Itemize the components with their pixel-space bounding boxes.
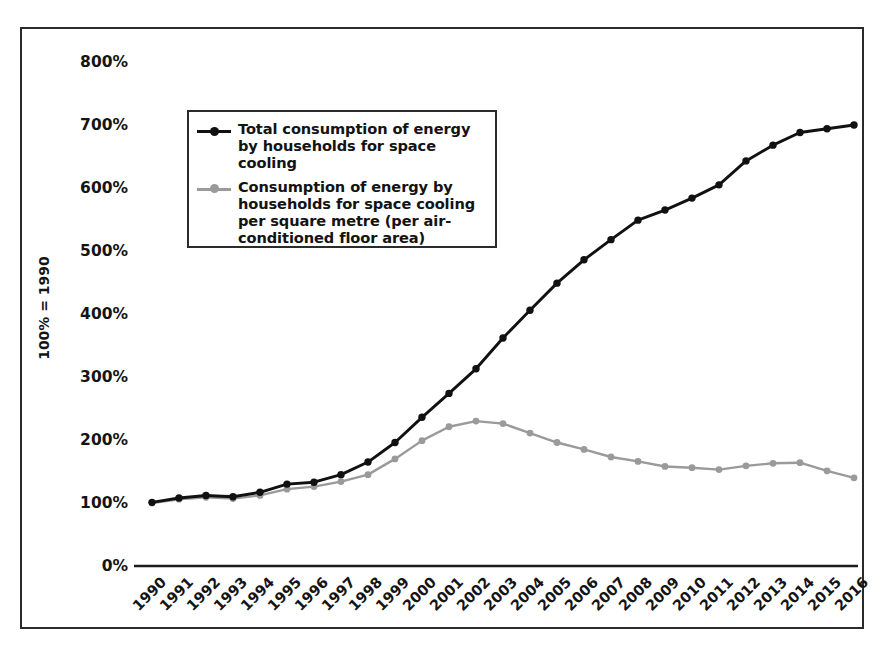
- data-point-marker: [202, 492, 209, 499]
- data-point-marker: [824, 467, 831, 474]
- data-point-marker: [392, 456, 399, 463]
- data-point-marker: [634, 216, 641, 223]
- data-point-marker: [446, 423, 453, 430]
- data-point-marker: [662, 463, 669, 470]
- data-point-marker: [445, 390, 452, 397]
- data-point-marker: [472, 365, 479, 372]
- data-point-marker: [716, 466, 723, 473]
- data-point-marker: [527, 430, 534, 437]
- data-point-marker: [365, 471, 372, 478]
- data-point-marker: [770, 460, 777, 467]
- chart-figure: 100% = 1990 800%700%600%500%400%300%200%…: [0, 0, 884, 646]
- data-point-marker: [581, 446, 588, 453]
- legend-label-total: Total consumption of energy by household…: [238, 121, 487, 172]
- data-point-marker: [607, 236, 614, 243]
- data-point-marker: [796, 129, 803, 136]
- data-point-marker: [769, 141, 776, 148]
- data-point-marker: [148, 499, 155, 506]
- data-point-marker: [689, 464, 696, 471]
- data-point-marker: [580, 256, 587, 263]
- legend-entry-total: Total consumption of energy by household…: [197, 121, 487, 172]
- data-point-marker: [473, 418, 480, 425]
- data-point-marker: [715, 181, 722, 188]
- data-point-marker: [661, 206, 668, 213]
- data-point-marker: [553, 279, 560, 286]
- legend-entry-per-sqm: Consumption of energy by households for …: [197, 179, 487, 247]
- data-point-marker: [635, 458, 642, 465]
- legend-line-sample-per-sqm: [197, 180, 231, 198]
- circle-marker: [210, 184, 219, 193]
- data-point-marker: [823, 125, 830, 132]
- data-point-marker: [499, 334, 506, 341]
- data-point-marker: [256, 489, 263, 496]
- data-point-marker: [418, 414, 425, 421]
- data-point-marker: [283, 480, 290, 487]
- data-point-marker: [851, 474, 858, 481]
- data-point-marker: [743, 462, 750, 469]
- data-point-marker: [310, 479, 317, 486]
- data-point-marker: [850, 121, 857, 128]
- data-point-marker: [742, 157, 749, 164]
- legend-line-sample-total: [197, 122, 231, 140]
- legend-label-per-sqm: Consumption of energy by households for …: [238, 179, 487, 247]
- data-point-marker: [688, 194, 695, 201]
- circle-marker: [210, 127, 219, 136]
- plot-area: [0, 0, 884, 646]
- data-point-marker: [175, 494, 182, 501]
- data-point-marker: [500, 420, 507, 427]
- data-point-marker: [229, 493, 236, 500]
- data-point-marker: [526, 307, 533, 314]
- data-point-marker: [338, 478, 345, 485]
- data-point-marker: [364, 458, 371, 465]
- data-point-marker: [419, 437, 426, 444]
- data-point-marker: [797, 459, 804, 466]
- data-point-marker: [554, 439, 561, 446]
- chart-legend: Total consumption of energy by household…: [187, 110, 497, 248]
- data-point-marker: [391, 439, 398, 446]
- data-point-marker: [337, 471, 344, 478]
- data-point-marker: [608, 454, 615, 461]
